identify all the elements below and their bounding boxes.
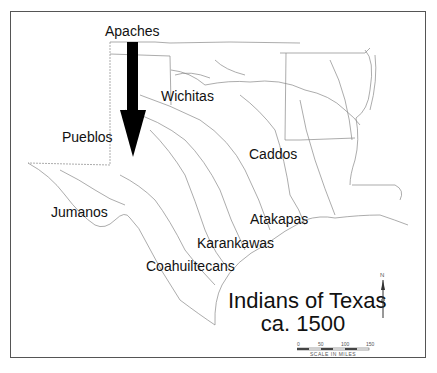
migration-arrow-icon [118, 40, 148, 160]
north-arrow-icon [378, 280, 388, 320]
map-title-line2: ca. 1500 [228, 312, 378, 335]
map-title-line1: Indians of Texas [228, 289, 378, 312]
label-apaches: Apaches [105, 24, 159, 38]
label-wichitas: Wichitas [161, 89, 214, 103]
label-jumanos: Jumanos [51, 205, 108, 219]
label-atakapas: Atakapas [250, 212, 308, 226]
label-caddos: Caddos [249, 147, 297, 161]
scale-label: SCALE IN MILES [310, 351, 356, 357]
label-pueblos: Pueblos [62, 130, 113, 144]
label-coahuiltecans: Coahuiltecans [146, 259, 235, 273]
north-label: N [380, 272, 384, 278]
label-karankawas: Karankawas [197, 236, 274, 250]
